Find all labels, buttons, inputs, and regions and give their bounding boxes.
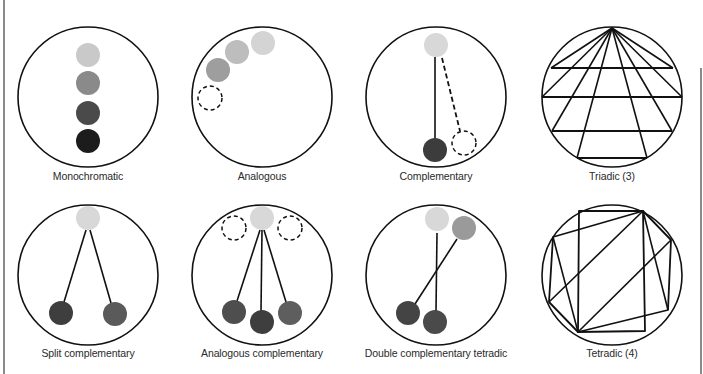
analogous-color-dot: [251, 31, 275, 55]
complementary-placeholder-dot: [452, 131, 476, 155]
tetradic-hexagon-outline: [549, 211, 671, 332]
analogous-color-dot: [225, 40, 249, 64]
label-monochromatic: Monochromatic: [53, 170, 123, 182]
monochromatic-color-dot: [76, 129, 100, 153]
label-analogous-complementary: Analogous complementary: [201, 347, 323, 359]
split-complementary-color-dot: [76, 206, 100, 230]
label-analogous: Analogous: [238, 170, 287, 182]
label-complementary: Complementary: [400, 170, 473, 182]
label-tetradic: Tetradic (4): [586, 347, 637, 359]
analogous-complementary-color-dot: [250, 310, 274, 334]
analogous-complementary-placeholder-dot: [222, 216, 246, 240]
complementary-color-dot: [424, 33, 448, 57]
label-split-complementary: Split complementary: [41, 347, 134, 359]
analogous-complementary-color-dot: [278, 301, 302, 325]
double-complementary-tetradic-color-dot: [452, 216, 476, 240]
tetradic-diagonal-line: [578, 240, 671, 332]
tetradic-rectangle: [578, 211, 645, 332]
analogous-complementary-placeholder-dot: [278, 216, 302, 240]
triadic-ray-line: [552, 28, 612, 131]
monochromatic-color-dot: [76, 43, 100, 67]
complementary-dashed-connector: [442, 58, 460, 131]
analogous-placeholder-dot: [198, 86, 222, 110]
monochromatic-color-dot: [76, 101, 100, 125]
label-triadic: Triadic (3): [589, 170, 635, 182]
split-complementary-color-dot: [103, 302, 127, 326]
diagram-canvas: [0, 0, 703, 374]
double-complementary-tetradic-color-dot: [423, 310, 447, 334]
monochromatic-color-dot: [76, 71, 100, 95]
analogous-complementary-color-dot: [222, 300, 246, 324]
analogous-complementary-color-dot: [250, 206, 274, 230]
double-complementary-tetradic-color-dot: [425, 207, 449, 231]
analogous-complementary-connector-line: [237, 230, 260, 301]
tetradic-diagonal-line: [643, 211, 668, 310]
split-complementary-connector-line: [90, 230, 111, 303]
split-complementary-color-dot: [49, 301, 73, 325]
complementary-color-dot: [423, 138, 447, 162]
analogous-color-dot: [206, 58, 230, 82]
analogous-complementary-connector-line: [264, 230, 286, 302]
color-harmony-diagram: Monochromatic Analogous Complementary Tr…: [0, 0, 703, 374]
label-double-complementary-tetradic: Double complementary tetradic: [365, 347, 507, 359]
split-complementary-connector-line: [64, 230, 86, 302]
triadic-ray-line: [612, 28, 672, 131]
analogous-complementary-connector-line: [261, 230, 262, 311]
double-complementary-tetradic-color-dot: [396, 301, 420, 325]
